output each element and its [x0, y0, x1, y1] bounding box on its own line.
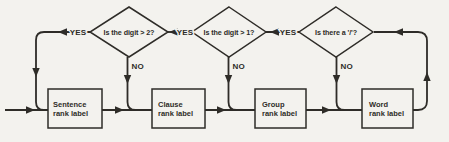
arrowhead-clause-to-group-icon — [217, 106, 226, 113]
arrowhead-entry-icon — [26, 106, 35, 113]
process-label-clause-line1: Clause — [158, 100, 183, 109]
flowchart-diagram: Is the digit > 2? Is the digit > 1? Is t… — [0, 0, 449, 142]
arrowhead-loop-into-slash-icon — [394, 28, 403, 35]
no-label-has-slash: NO — [341, 62, 353, 71]
yes-label-digit-gt-2: YES — [70, 28, 87, 37]
process-label-clause-line2: rank label — [158, 109, 193, 118]
no-label-digit-gt-2: NO — [132, 62, 144, 71]
no-label-digit-gt-1: NO — [233, 62, 245, 71]
arrowhead-down-no-digit2-icon — [124, 75, 131, 84]
process-label-group-line1: Group — [262, 100, 285, 109]
arrowhead-up-loop-icon — [423, 72, 430, 81]
decision-label-digit-gt-2: Is the digit > 2? — [104, 28, 155, 37]
decision-label-has-slash: Is there a '/'? — [315, 28, 357, 37]
decision-label-digit-gt-1: Is the digit > 1? — [204, 28, 255, 37]
process-label-word-line2: rank label — [369, 109, 404, 118]
arrowhead-group-to-word-icon — [322, 106, 331, 113]
arrowhead-yes-digit2-icon — [58, 28, 67, 35]
yes-label-has-slash: YES — [280, 28, 297, 37]
arrowhead-yes-slash-icon — [270, 28, 279, 35]
arrowhead-down-yes-digit2-icon — [32, 68, 39, 77]
flowchart-page: Is the digit > 2? Is the digit > 1? Is t… — [0, 0, 449, 142]
process-label-group-line2: rank label — [262, 109, 297, 118]
process-label-word-line1: Word — [369, 100, 388, 109]
arrowhead-down-no-digit1-icon — [225, 75, 232, 84]
arrowhead-down-no-slash-icon — [333, 75, 340, 84]
process-label-sentence-line1: Sentence — [53, 100, 86, 109]
yes-label-digit-gt-1: YES — [177, 28, 194, 37]
process-label-sentence-line2: rank label — [53, 109, 88, 118]
arrowhead-sentence-to-clause-icon — [115, 106, 124, 113]
